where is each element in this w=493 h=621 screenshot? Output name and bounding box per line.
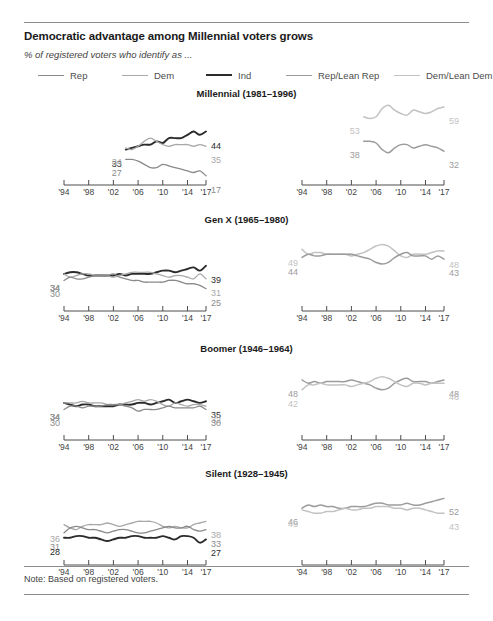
footnote: Note: Based on registered voters. (24, 574, 158, 584)
end-value-label: 43 (449, 269, 459, 278)
start-value-label: 48 (288, 389, 298, 398)
page-title: Democratic advantage among Millennial vo… (24, 30, 313, 42)
legend-item-dem[interactable]: Dem (122, 68, 174, 82)
panel-heading: Boomer (1946–1964) (0, 343, 493, 354)
tick-label: '94 (58, 313, 69, 323)
plot-genx-left: 343934313025 (24, 228, 234, 310)
tick-label-row: '94'98'02'06'10'14'17 (262, 441, 472, 453)
legend-item-ind[interactable]: Ind (206, 68, 251, 82)
plot-millennial-right: 53593832 (262, 102, 472, 184)
tick-label: '94 (58, 187, 69, 197)
tick-label: '06 (133, 187, 144, 197)
legend-swatch-icon (38, 75, 64, 76)
end-value-label: 43 (449, 523, 459, 532)
panel-millennial: Millennial (1981–1996)334434352717'94'98… (0, 88, 493, 200)
tick-label: '14 (420, 442, 431, 452)
tick-label: '10 (395, 442, 406, 452)
tick-label: '17 (438, 442, 449, 452)
panel-boomer: Boomer (1946–1964)343534323030'94'98'02'… (0, 343, 493, 455)
tick-label: '98 (321, 187, 332, 197)
panel-heading: Silent (1928–1945) (0, 468, 493, 479)
x-axis-millennial-right: '94'98'02'06'10'14'17 (262, 180, 472, 198)
legend-label: Rep/Lean Rep (318, 70, 379, 81)
plot-silent-left: 363831332827 (24, 482, 234, 564)
start-value-label: 28 (50, 547, 60, 556)
tick-label: '17 (438, 567, 449, 577)
tick-label: '10 (395, 567, 406, 577)
legend-item-rep-lean-rep[interactable]: Rep/Lean Rep (286, 68, 379, 82)
tick-label-row: '94'98'02'06'10'14'17 (24, 441, 234, 453)
end-value-label: 59 (449, 116, 459, 125)
tick-label-row: '94'98'02'06'10'14'17 (262, 312, 472, 324)
x-axis-genx-left: '94'98'02'06'10'14'17 (24, 306, 234, 324)
start-value-label: 53 (350, 126, 360, 135)
tick-label: '17 (438, 313, 449, 323)
tick-label: '06 (133, 442, 144, 452)
tick-label: '98 (321, 313, 332, 323)
legend-label: Ind (238, 70, 251, 81)
legend-label: Dem/Lean Dem (426, 70, 493, 81)
end-value-label: 33 (211, 539, 221, 548)
tick-label: '10 (157, 313, 168, 323)
series-line-dem-lean-dem (302, 377, 444, 390)
panel-silent: Silent (1928–1945)363831332827'94'98'02'… (0, 468, 493, 580)
tick-label: '06 (371, 313, 382, 323)
tick-label: '94 (296, 313, 307, 323)
series-line-rep (126, 159, 206, 176)
plot-boomer-right: 48484246 (262, 357, 472, 439)
series-canvas (24, 102, 234, 184)
end-value-label: 44 (211, 141, 221, 150)
series-line-ind (64, 536, 206, 543)
tick-label: '94 (296, 442, 307, 452)
plot-boomer-left: 343534323030 (24, 357, 234, 439)
legend-swatch-icon (286, 75, 312, 76)
tick-label: '02 (108, 313, 119, 323)
tick-label-row: '94'98'02'06'10'14'17 (262, 566, 472, 578)
chart-subtitle: % of registered voters who identify as .… (24, 49, 192, 60)
footer-rule (24, 594, 469, 595)
end-value-label: 52 (449, 508, 459, 517)
infographic-page: Democratic advantage among Millennial vo… (0, 0, 493, 621)
legend-item-rep[interactable]: Rep (38, 68, 87, 82)
tick-label: '98 (83, 313, 94, 323)
start-value-label: 27 (112, 169, 122, 178)
x-axis-genx-right: '94'98'02'06'10'14'17 (262, 306, 472, 324)
plot-silent-right: 46524543 (262, 482, 472, 564)
tick-label: '02 (346, 442, 357, 452)
tick-label-row: '94'98'02'06'10'14'17 (24, 312, 234, 324)
series-line-rep-lean-rep (364, 141, 444, 153)
tick-label: '17 (200, 442, 211, 452)
legend-item-dem-lean-dem[interactable]: Dem/Lean Dem (394, 68, 493, 82)
tick-label: '10 (395, 313, 406, 323)
end-value-label: 32 (449, 161, 459, 170)
tick-label: '02 (108, 187, 119, 197)
tick-label: '10 (157, 567, 168, 577)
panel-heading: Gen X (1965–1980) (0, 214, 493, 225)
x-axis-boomer-right: '94'98'02'06'10'14'17 (262, 435, 472, 453)
tick-label: '14 (182, 313, 193, 323)
tick-label: '06 (133, 313, 144, 323)
tick-label: '98 (83, 187, 94, 197)
tick-label: '17 (438, 187, 449, 197)
tick-label: '94 (296, 567, 307, 577)
plot-millennial-left: 334434352717 (24, 102, 234, 184)
tick-label: '02 (108, 442, 119, 452)
tick-label: '94 (296, 187, 307, 197)
start-value-label: 42 (288, 399, 298, 408)
tick-label: '14 (420, 187, 431, 197)
start-value-label: 45 (288, 519, 298, 528)
tick-label: '06 (371, 442, 382, 452)
legend-swatch-icon (394, 75, 420, 76)
start-value-label: 30 (50, 290, 60, 299)
plot-genx-right: 49484443 (262, 228, 472, 310)
tick-label: '14 (182, 567, 193, 577)
tick-label: '10 (157, 442, 168, 452)
legend: RepDemIndRep/Lean RepDem/Lean Dem (24, 68, 472, 84)
series-canvas (262, 102, 472, 184)
legend-swatch-icon (206, 74, 232, 76)
start-value-label: 34 (112, 157, 122, 166)
end-value-label: 35 (211, 156, 221, 165)
tick-label: '06 (371, 187, 382, 197)
end-value-label: 30 (211, 419, 221, 428)
bottom-rule (24, 566, 469, 567)
